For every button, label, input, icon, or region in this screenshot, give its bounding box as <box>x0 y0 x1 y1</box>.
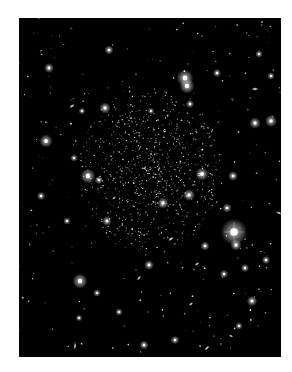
field-star <box>207 70 208 71</box>
cluster-star <box>122 224 123 225</box>
cluster-star <box>131 243 132 244</box>
cluster-star <box>95 140 96 141</box>
field-star <box>42 157 43 158</box>
cluster-star <box>162 178 163 179</box>
cluster-star <box>197 121 198 122</box>
cluster-star <box>113 151 114 152</box>
cluster-star <box>148 158 149 159</box>
cluster-star <box>136 177 137 178</box>
field-star <box>122 81 123 82</box>
cluster-star <box>212 208 213 209</box>
cluster-star <box>167 107 168 108</box>
cluster-star <box>181 179 182 180</box>
field-star <box>260 291 261 292</box>
cluster-star <box>118 151 119 152</box>
cluster-star <box>190 181 191 182</box>
cluster-star <box>144 198 145 199</box>
field-star <box>22 207 23 208</box>
field-star <box>260 251 261 252</box>
cluster-star <box>123 216 124 217</box>
field-star <box>52 328 53 329</box>
cluster-star <box>99 121 100 122</box>
cluster-star <box>148 238 149 239</box>
field-star <box>170 293 171 294</box>
cluster-star <box>183 156 184 157</box>
cluster-star <box>216 169 217 170</box>
cluster-star <box>164 196 165 197</box>
cluster-star <box>150 178 151 179</box>
cluster-star <box>170 120 171 121</box>
background-galaxy <box>73 342 77 350</box>
cluster-star <box>140 157 141 158</box>
cluster-star <box>128 234 129 235</box>
cluster-star <box>189 98 190 99</box>
cluster-star <box>150 156 151 157</box>
cluster-star <box>176 123 177 124</box>
cluster-star <box>169 123 170 124</box>
cluster-star <box>102 198 103 199</box>
cluster-star <box>219 176 220 177</box>
cluster-star <box>108 179 109 180</box>
cluster-star <box>128 120 129 121</box>
cluster-star <box>125 247 126 248</box>
field-star <box>90 246 91 247</box>
cluster-star <box>208 164 209 165</box>
cluster-star <box>157 161 158 162</box>
field-star <box>29 244 31 246</box>
field-star <box>245 72 247 74</box>
cluster-star <box>142 95 143 96</box>
cluster-star <box>100 187 101 188</box>
cluster-star <box>169 185 170 186</box>
field-star <box>212 51 213 52</box>
cluster-star <box>174 138 175 139</box>
cluster-star <box>170 149 171 150</box>
cluster-star <box>127 148 128 149</box>
cluster-star <box>124 225 125 226</box>
cluster-star <box>163 187 164 188</box>
field-star <box>82 100 83 101</box>
cluster-star <box>153 127 154 128</box>
cluster-star <box>208 191 209 192</box>
field-star <box>135 270 136 271</box>
cluster-star <box>192 184 193 185</box>
cluster-star <box>155 135 156 136</box>
cluster-star <box>119 134 120 135</box>
cluster-star <box>119 127 120 128</box>
field-star <box>41 121 42 122</box>
cluster-star <box>207 127 209 129</box>
cluster-star <box>136 124 137 125</box>
cluster-star <box>195 154 196 155</box>
cluster-star <box>176 128 177 129</box>
cluster-star <box>89 151 90 152</box>
cluster-star <box>140 126 141 127</box>
cluster-star <box>130 213 131 214</box>
field-star <box>279 92 280 93</box>
cluster-star <box>111 218 112 219</box>
cluster-star <box>143 138 144 139</box>
cluster-star <box>112 101 113 102</box>
cluster-star <box>109 174 110 175</box>
cluster-star <box>196 129 197 130</box>
field-star <box>182 23 184 25</box>
cluster-star <box>158 134 159 135</box>
cluster-star <box>90 160 91 161</box>
cluster-star <box>98 164 99 165</box>
cluster-star <box>135 130 136 131</box>
cluster-star <box>141 187 142 188</box>
cluster-star <box>181 197 182 198</box>
cluster-star <box>163 136 165 138</box>
cluster-star <box>204 196 205 197</box>
field-star <box>127 49 128 50</box>
cluster-star <box>164 90 165 91</box>
cluster-star <box>161 176 162 177</box>
cluster-star <box>182 142 183 143</box>
field-star <box>19 266 20 267</box>
cluster-star <box>169 171 170 172</box>
cluster-star <box>169 223 170 224</box>
field-star <box>33 33 34 34</box>
cluster-star <box>112 180 113 181</box>
cluster-star <box>158 180 159 181</box>
cluster-star <box>173 192 174 193</box>
field-star <box>22 297 24 299</box>
cluster-star <box>115 188 116 189</box>
